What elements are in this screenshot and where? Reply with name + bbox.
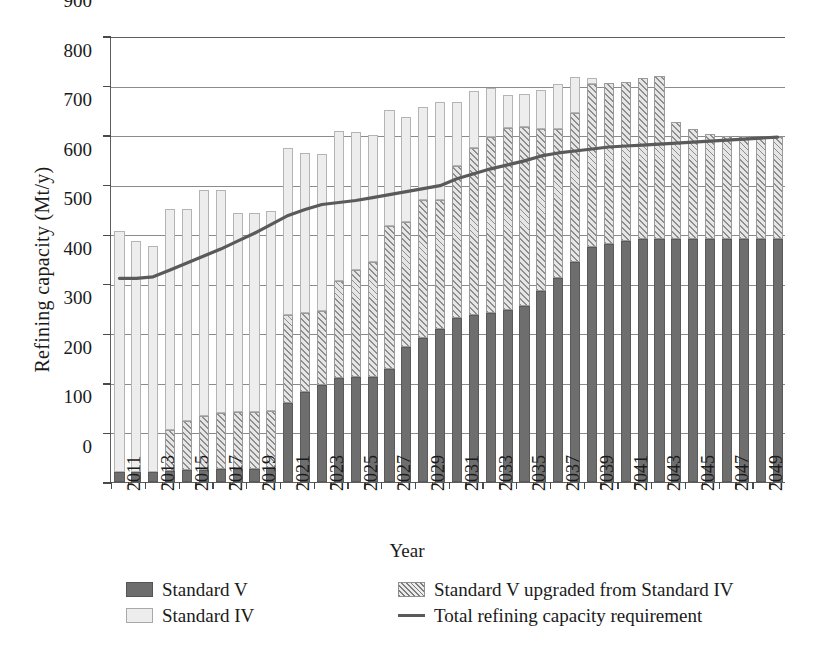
x-axis-tick-label: 2017 <box>227 455 245 491</box>
x-axis-tick <box>449 482 450 489</box>
x-axis-tick <box>617 482 618 489</box>
y-axis-tick-label: 600 <box>64 140 93 159</box>
y-axis-tick <box>103 36 111 37</box>
legend-item-standard-v-upgraded: Standard V upgraded from Standard IV <box>398 580 734 599</box>
legend-label: Total refining capacity requirement <box>434 606 702 625</box>
x-axis-tick-label: 2033 <box>497 455 515 491</box>
x-axis-tick <box>212 482 213 489</box>
y-axis-tick-label: 500 <box>64 189 93 208</box>
x-axis-tick-label: 2049 <box>767 455 785 491</box>
y-axis-tick <box>103 433 111 434</box>
x-axis-tick-label: 2045 <box>699 455 717 491</box>
x-axis-tick <box>651 482 652 489</box>
y-axis-tick-label: 800 <box>64 41 93 60</box>
y-axis-tick <box>103 284 111 285</box>
chart-legend: Standard V Standard V upgraded from Stan… <box>126 580 786 632</box>
y-axis-tick <box>103 86 111 87</box>
x-axis-tick <box>381 482 382 489</box>
x-axis-tick-label: 2041 <box>632 455 650 491</box>
legend-row-1: Standard V Standard V upgraded from Stan… <box>126 580 786 606</box>
x-axis-tick-label: 2023 <box>328 455 346 491</box>
plot-area <box>110 37 785 483</box>
x-axis-tick-label: 2047 <box>733 455 751 491</box>
legend-label: Standard V <box>162 580 248 599</box>
x-axis-tick-label: 2039 <box>598 455 616 491</box>
y-axis-tick <box>103 383 111 384</box>
total-requirement-line <box>111 37 786 483</box>
legend-item-standard-iv: Standard IV <box>126 606 254 625</box>
legend-item-total-requirement: Total refining capacity requirement <box>398 606 702 625</box>
x-axis-tick-label: 2025 <box>362 455 380 491</box>
light-swatch-icon <box>126 608 153 623</box>
x-axis-tick <box>246 482 247 489</box>
x-axis-tick-label: 2035 <box>530 455 548 491</box>
x-axis-tick <box>482 482 483 489</box>
legend-item-standard-v: Standard V <box>126 580 248 599</box>
legend-label: Standard IV <box>162 606 254 625</box>
x-axis-tick-label: 2031 <box>463 455 481 491</box>
x-axis-tick-label: 2011 <box>125 456 143 491</box>
x-axis-tick-label: 2029 <box>429 455 447 491</box>
x-axis-tick-label: 2043 <box>665 455 683 491</box>
x-axis-tick <box>347 482 348 489</box>
y-axis-tick <box>103 334 111 335</box>
x-axis-tick <box>752 482 753 489</box>
y-axis-tick <box>103 135 111 136</box>
y-axis-tick-label: 0 <box>83 437 93 456</box>
x-axis-tick <box>111 482 112 489</box>
y-axis-tick-labels: 0100200300400500600700800900 <box>0 0 104 446</box>
x-axis-tick-label: 2015 <box>193 455 211 491</box>
y-axis-tick-label: 400 <box>64 239 93 258</box>
x-axis-tick <box>516 482 517 489</box>
y-axis-tick-label: 700 <box>64 90 93 109</box>
x-axis-tick-label: 2021 <box>294 455 312 491</box>
x-axis-tick <box>550 482 551 489</box>
y-axis-tick-label: 900 <box>64 0 93 10</box>
x-axis-tick <box>145 482 146 489</box>
x-axis-title: Year <box>0 540 814 562</box>
x-axis-tick <box>584 482 585 489</box>
y-axis-tick <box>103 235 111 236</box>
y-axis-tick <box>103 482 111 483</box>
x-axis-tick <box>685 482 686 489</box>
x-axis-tick <box>280 482 281 489</box>
y-axis-tick <box>103 185 111 186</box>
x-axis-tick-label: 2027 <box>395 455 413 491</box>
x-axis-tick <box>415 482 416 489</box>
solid-dark-swatch-icon <box>126 582 153 597</box>
legend-row-2: Standard IV Total refining capacity requ… <box>126 606 786 632</box>
legend-label: Standard V upgraded from Standard IV <box>434 580 734 599</box>
x-axis-tick <box>179 482 180 489</box>
hatch-swatch-icon <box>398 582 425 597</box>
x-axis-tick-label: 2037 <box>564 455 582 491</box>
x-axis-tick-label: 2013 <box>159 455 177 491</box>
x-axis-tick <box>719 482 720 489</box>
x-axis-tick-label: 2019 <box>260 455 278 491</box>
chart-figure: Refining capacity (Mt/y) Year 0100200300… <box>0 0 814 663</box>
x-axis-tick <box>314 482 315 489</box>
y-axis-tick-label: 100 <box>64 387 93 406</box>
y-axis-tick-label: 300 <box>64 288 93 307</box>
y-axis-tick-label: 200 <box>64 338 93 357</box>
line-swatch-icon <box>398 614 425 617</box>
